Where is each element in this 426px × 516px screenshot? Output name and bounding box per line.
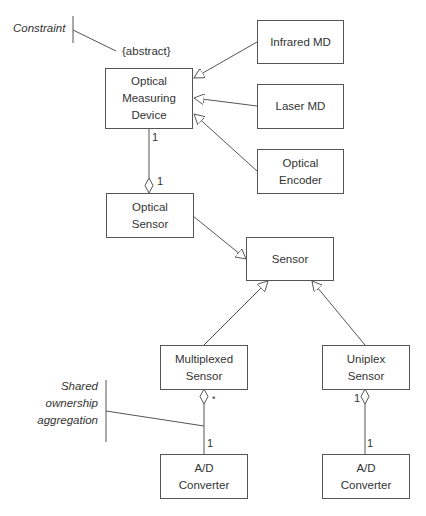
class-laser-md: Laser MD (257, 84, 344, 129)
class-multiplexed-sensor: Multiplexed Sensor (160, 345, 248, 390)
uniplex-generalization (312, 281, 365, 345)
optical-sensor-generalization (193, 216, 246, 259)
laser-generalization (194, 98, 257, 106)
constraint-note: Constraint (13, 20, 65, 37)
encoder-generalization (194, 114, 257, 171)
class-uniplex-sensor: Uniplex Sensor (322, 345, 410, 390)
constraint-note-label: Constraint (13, 22, 65, 34)
uniplex-aggregation-diamond (361, 389, 369, 404)
multiplicity-ad-left: 1 (207, 437, 213, 449)
shared-note-line (106, 411, 204, 426)
class-sensor: Sensor (246, 237, 334, 281)
multiplicity-multiplexed: * (212, 394, 216, 404)
infrared-generalization (194, 42, 257, 78)
shared-aggregation-diamond (200, 389, 208, 404)
multiplicity-optical-sensor: 1 (157, 175, 163, 187)
class-optical-encoder: Optical Encoder (257, 149, 344, 194)
class-infrared-md: Infrared MD (257, 20, 344, 64)
class-optical-measuring-device: Optical Measuring Device (105, 68, 193, 129)
aggregation-diamond (145, 178, 153, 193)
class-ad-converter-left: A/D Converter (160, 454, 248, 499)
multiplicity-uniplex: 1 (354, 392, 360, 404)
constraint-note-line (73, 30, 116, 51)
multiplexed-generalization (204, 281, 268, 345)
multiplicity-omd: 1 (152, 131, 158, 143)
abstract-constraint: {abstract} (122, 45, 171, 57)
class-optical-sensor: Optical Sensor (106, 193, 194, 238)
class-ad-converter-right: A/D Converter (322, 454, 410, 499)
shared-ownership-note: Shared ownership aggregation (30, 378, 98, 429)
multiplicity-ad-right: 1 (367, 437, 373, 449)
